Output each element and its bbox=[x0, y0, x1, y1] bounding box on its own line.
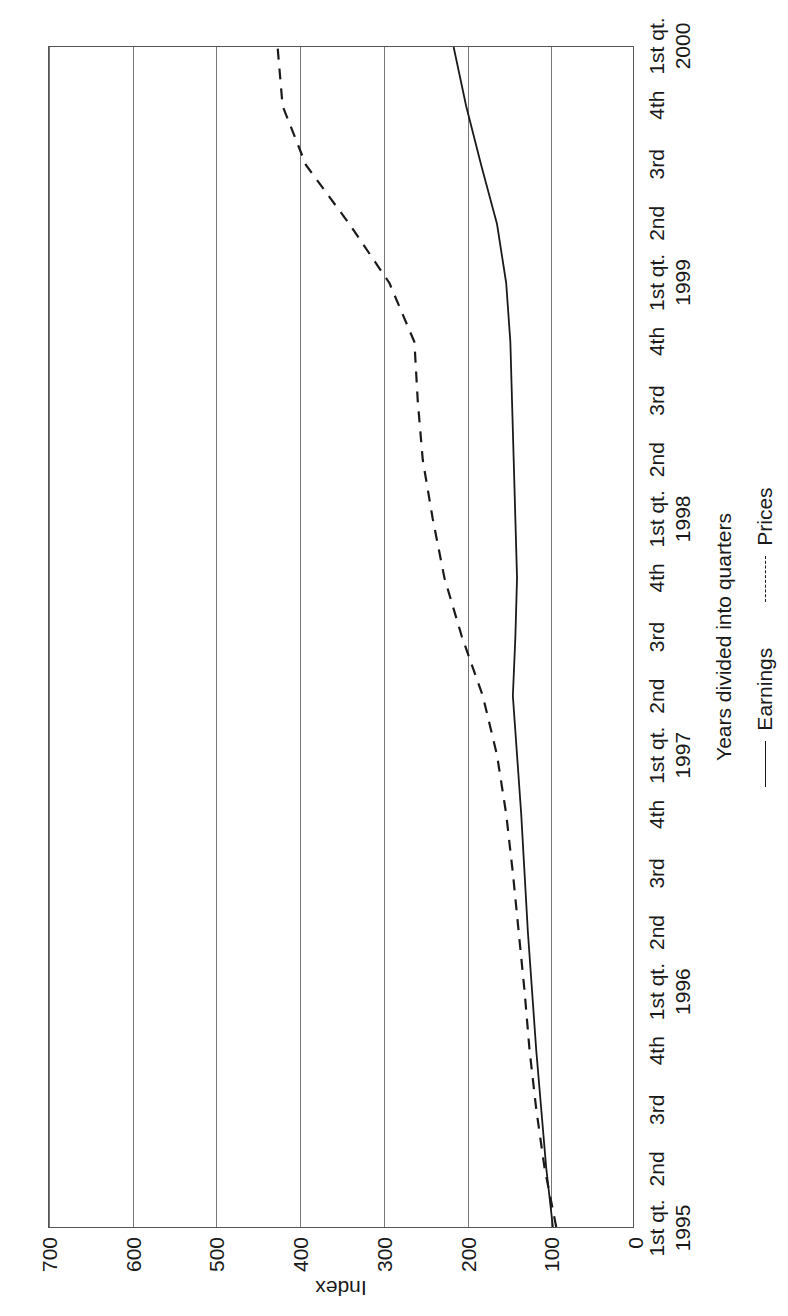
line-chart-figure: Index 0100200300400500600700 1st qt.1995… bbox=[0, 0, 788, 1316]
x-axis-tick-labels: 1st qt.19952nd3rd4th1st qt.19962nd3rd4th… bbox=[644, 46, 704, 1228]
x-tick-quarter: 3rd bbox=[644, 622, 670, 652]
x-tick-quarter: 2nd bbox=[644, 679, 670, 714]
x-tick-quarter: 1st qt. bbox=[644, 727, 670, 784]
x-tick-quarter: 2nd bbox=[644, 915, 670, 950]
legend-label: Prices bbox=[753, 487, 777, 545]
x-tick-year: 1998 bbox=[670, 490, 696, 547]
x-tick-quarter: 3rd bbox=[644, 1095, 670, 1125]
x-axis-tick-label: 3rd bbox=[644, 1095, 670, 1125]
y-axis-tick-label: 700 bbox=[39, 1237, 60, 1272]
series-layer bbox=[49, 47, 633, 1227]
x-axis-tick-label: 3rd bbox=[644, 858, 670, 888]
x-tick-quarter: 1st qt. bbox=[644, 1199, 670, 1256]
x-axis-tick-label: 4th bbox=[644, 800, 670, 829]
x-axis-tick-label: 4th bbox=[644, 563, 670, 592]
x-tick-year: 1995 bbox=[670, 1199, 696, 1256]
x-tick-year: 1996 bbox=[670, 963, 696, 1020]
x-axis-tick-label: 1st qt.2000 bbox=[644, 17, 696, 74]
x-axis-tick-label: 1st qt.1999 bbox=[644, 254, 696, 311]
x-tick-quarter: 3rd bbox=[644, 149, 670, 179]
y-axis-tick-label: 0 bbox=[625, 1237, 646, 1249]
y-axis-tick-label: 600 bbox=[122, 1237, 143, 1272]
x-tick-quarter: 1st qt. bbox=[644, 254, 670, 311]
y-axis-title: Index bbox=[48, 1274, 634, 1302]
series-line-earnings bbox=[454, 47, 553, 1227]
x-axis-tick-label: 2nd bbox=[644, 679, 670, 714]
x-axis-tick-label: 3rd bbox=[644, 149, 670, 179]
x-tick-quarter: 1st qt. bbox=[644, 17, 670, 74]
x-tick-quarter: 3rd bbox=[644, 385, 670, 415]
rotated-figure-container: Index 0100200300400500600700 1st qt.1995… bbox=[0, 0, 788, 1316]
legend-label: Earnings bbox=[753, 648, 777, 731]
x-axis-tick-label: 3rd bbox=[644, 622, 670, 652]
x-tick-quarter: 1st qt. bbox=[644, 490, 670, 547]
y-axis-tick-label: 300 bbox=[373, 1237, 394, 1272]
y-axis-tick-label: 500 bbox=[206, 1237, 227, 1272]
x-tick-quarter: 2nd bbox=[644, 1151, 670, 1186]
x-tick-quarter: 2nd bbox=[644, 206, 670, 241]
x-tick-quarter: 2nd bbox=[644, 442, 670, 477]
x-axis-tick-label: 3rd bbox=[644, 385, 670, 415]
x-tick-quarter: 4th bbox=[644, 563, 670, 592]
x-axis-tick-label: 1st qt.1996 bbox=[644, 963, 696, 1020]
y-axis-tick-label: 100 bbox=[541, 1237, 562, 1272]
x-axis-title: Years divided into quarters bbox=[712, 46, 736, 1228]
y-axis-tick-label: 400 bbox=[290, 1237, 311, 1272]
x-tick-quarter: 4th bbox=[644, 800, 670, 829]
legend-item-earnings: Earnings bbox=[753, 648, 777, 787]
x-axis-tick-label: 4th bbox=[644, 1036, 670, 1065]
x-tick-quarter: 3rd bbox=[644, 858, 670, 888]
legend-swatch-dashed-icon bbox=[765, 556, 766, 602]
chart-legend: EarningsPrices bbox=[750, 46, 780, 1228]
x-axis-tick-label: 1st qt.1997 bbox=[644, 727, 696, 784]
x-axis-tick-label: 2nd bbox=[644, 1151, 670, 1186]
x-axis-tick-label: 1st qt.1998 bbox=[644, 490, 696, 547]
x-tick-quarter: 4th bbox=[644, 327, 670, 356]
legend-item-prices: Prices bbox=[753, 487, 777, 601]
x-axis-tick-label: 2nd bbox=[644, 442, 670, 477]
x-axis-tick-label: 4th bbox=[644, 327, 670, 356]
x-axis-tick-label: 1st qt.1995 bbox=[644, 1199, 696, 1256]
x-axis-tick-label: 2nd bbox=[644, 206, 670, 241]
y-axis-tick-label: 200 bbox=[457, 1237, 478, 1272]
legend-swatch-solid-icon bbox=[765, 741, 766, 787]
series-line-prices bbox=[278, 47, 557, 1227]
x-tick-year: 1997 bbox=[670, 727, 696, 784]
x-tick-quarter: 4th bbox=[644, 1036, 670, 1065]
plot-area: 0100200300400500600700 bbox=[48, 46, 634, 1228]
x-axis-tick-label: 2nd bbox=[644, 915, 670, 950]
x-tick-year: 1999 bbox=[670, 254, 696, 311]
x-tick-year: 2000 bbox=[670, 17, 696, 74]
x-tick-quarter: 1st qt. bbox=[644, 963, 670, 1020]
x-axis-tick-label: 4th bbox=[644, 91, 670, 120]
x-tick-quarter: 4th bbox=[644, 91, 670, 120]
